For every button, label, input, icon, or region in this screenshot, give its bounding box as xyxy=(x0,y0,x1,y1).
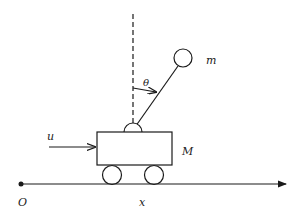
label-origin: O xyxy=(18,196,27,209)
angle-arrow xyxy=(133,88,156,92)
pendulum-bob xyxy=(174,49,192,67)
label-force: u xyxy=(47,130,54,143)
label-angle: θ xyxy=(143,77,149,88)
cart-pole-diagram: m θ u M O x xyxy=(0,0,304,222)
cart-wheel-left xyxy=(103,166,122,185)
label-cart-mass: M xyxy=(181,145,194,158)
cart-wheel-right xyxy=(145,166,164,185)
cart-body xyxy=(97,132,172,165)
origin-point xyxy=(19,182,24,187)
pivot-joint xyxy=(124,123,142,132)
label-x-axis: x xyxy=(139,196,146,209)
label-pendulum-mass: m xyxy=(206,54,216,67)
pendulum-rod xyxy=(133,66,178,130)
